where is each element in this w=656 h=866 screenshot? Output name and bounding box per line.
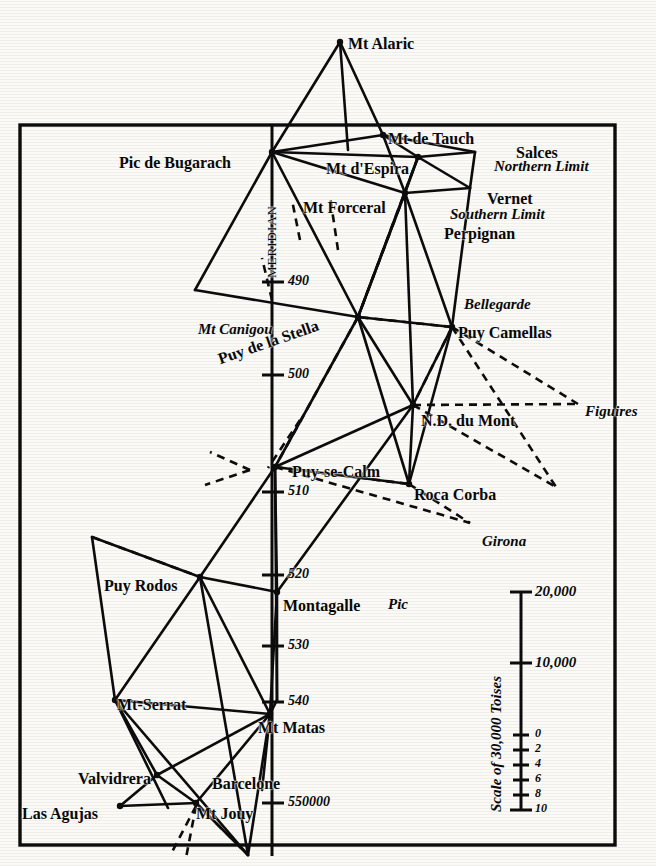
station-label: Mt Forceral — [303, 200, 386, 216]
station-label: Mt Alaric — [348, 36, 414, 52]
station-node — [117, 803, 123, 809]
triangulation-map — [0, 0, 656, 866]
station-label: Northern Limit — [494, 159, 589, 174]
station-label: Mt d'Espira — [326, 161, 409, 177]
station-label: Pic de Bugarach — [119, 155, 231, 171]
station-label: Valvidrera — [78, 771, 151, 787]
station-label: Montagalle — [283, 598, 360, 614]
station-label: Figuires — [585, 404, 638, 419]
station-label: Mt Matas — [258, 720, 325, 736]
meridian-tick-label: 520 — [288, 567, 309, 581]
station-label: Girona — [482, 534, 526, 549]
scale-bar-title: Scale of 30,000 Toises — [489, 676, 504, 812]
meridian-tick-label: 550000 — [288, 795, 330, 809]
station-label: Puy Camellas — [458, 325, 552, 341]
station-label: Mt-Serrat — [117, 697, 186, 713]
station-label: Pic — [388, 597, 408, 612]
station-label: Mt de Tauch — [388, 131, 474, 147]
meridian-tick-label: 510 — [288, 484, 309, 498]
station-node — [337, 39, 343, 45]
station-label: Southern Limit — [450, 207, 545, 222]
scale-tick-label: 20,000 — [535, 584, 576, 599]
station-node — [380, 132, 386, 138]
station-label: Las Agujas — [22, 806, 98, 822]
meridian-tick-label: 490 — [288, 274, 309, 288]
station-label: Vernet — [487, 191, 533, 207]
scale-tick-label: 0 — [535, 727, 541, 739]
station-label: Barcelone — [212, 776, 280, 792]
scale-tick-label: 8 — [535, 787, 541, 799]
scale-tick-label: 10,000 — [535, 655, 576, 670]
scale-tick-label: 10 — [535, 802, 547, 814]
station-node — [154, 772, 160, 778]
station-label: Roca Corba — [414, 487, 496, 503]
meridian-tick-label: 500 — [288, 367, 309, 381]
station-node — [274, 589, 280, 595]
scale-tick-label: 2 — [535, 742, 541, 754]
station-label: N.D. du Mont — [421, 413, 515, 429]
station-label: Perpignan — [444, 226, 515, 242]
station-label: Puy-se-Calm — [292, 464, 380, 480]
scale-tick-label: 4 — [535, 757, 541, 769]
meridian-axis-label: MERIDIAN — [265, 205, 278, 278]
station-label: Mt Jouy — [196, 806, 253, 822]
meridian-tick-label: 530 — [288, 638, 309, 652]
meridian-tick-label: 540 — [288, 694, 309, 708]
station-label: Puy Rodos — [104, 578, 177, 594]
scale-tick-label: 6 — [535, 772, 541, 784]
station-label: Bellegarde — [464, 297, 531, 312]
paper-background — [0, 0, 656, 866]
